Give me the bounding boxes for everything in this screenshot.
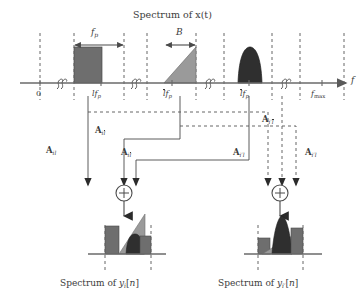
- axis-label-lbar-fp: lfp: [163, 90, 172, 99]
- axis-label-lfp: lfp: [92, 90, 101, 99]
- dimension-label-B: B: [176, 28, 183, 37]
- matrix-label-A-iprime-l: Ai′l: [233, 148, 245, 158]
- axis-variable-label: f: [351, 76, 354, 85]
- out-i-rect: [105, 226, 119, 254]
- output-iprime-caption: Spectrum of yi′[n]: [218, 279, 298, 289]
- matrix-label-A-il-bar: Ail: [95, 126, 105, 136]
- out-ip-rect2: [291, 228, 303, 254]
- dimension-label-fp: fp: [91, 28, 98, 38]
- figure-title: Spectrum of x(t): [133, 10, 212, 20]
- matrix-label-A-iprime-l-tilde: Ai′l: [262, 115, 274, 125]
- matrix-label-A-iprime-l-bar: Ai′l: [305, 148, 317, 158]
- out-i-rect2: [140, 236, 151, 254]
- output-i-caption: Spectrum of yi[n]: [60, 279, 139, 289]
- figure-canvas: Spectrum of x(t) fp B 0 lfp lfp lfp fmax…: [0, 0, 364, 305]
- matrix-label-A-il: Ail: [46, 146, 56, 156]
- output-i-group: [88, 214, 166, 270]
- axis-label-fmax: fmax: [311, 90, 325, 99]
- matrix-label-A-il-tilde: Ail: [121, 148, 131, 158]
- axis-label-ltilde-fp: lfp: [240, 90, 249, 99]
- out-ip-dome: [272, 216, 292, 254]
- output-iprime-group: [244, 216, 322, 270]
- axis-label-origin: 0: [36, 90, 41, 98]
